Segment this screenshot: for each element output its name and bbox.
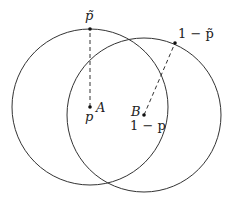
point-a-top [88, 27, 92, 31]
diagram-canvas: p̃ 1 − p̃ A p B 1 − p [0, 0, 231, 200]
label-p-tilde: p̃ [85, 8, 94, 23]
point-b-edge [173, 41, 177, 45]
label-one-minus-p-tilde: 1 − p̃ [178, 26, 214, 41]
label-p: p [85, 109, 94, 124]
dashed-radius-b [144, 43, 175, 115]
label-b: B [130, 104, 141, 119]
point-b-center [142, 113, 146, 117]
label-a: A [95, 100, 105, 115]
label-one-minus-p: 1 − p [130, 118, 166, 133]
